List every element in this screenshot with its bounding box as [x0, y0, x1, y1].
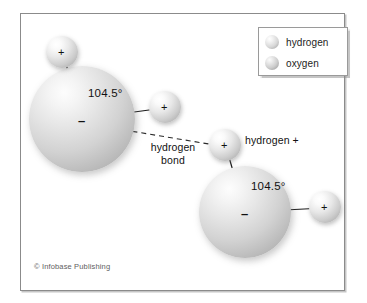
hydrogen-bond-label-line1: hydrogen [136, 141, 210, 154]
oxygen-lower-charge: – [241, 207, 248, 220]
copyright-credit: © Infobase Publishing [34, 262, 110, 271]
angle-label-lower: 104.5° [251, 180, 286, 192]
legend-item-hydrogen: hydrogen [265, 32, 347, 52]
hydrogen-lower-right-charge: + [321, 202, 327, 213]
angle-label-upper: 104.5° [88, 87, 123, 99]
legend-label-hydrogen: hydrogen [286, 37, 329, 48]
legend: hydrogen oxygen [258, 27, 348, 76]
hydrogen-sphere-icon [265, 35, 279, 49]
hydrogen-plus-label: hydrogen + [245, 134, 299, 146]
legend-item-oxygen: oxygen [265, 53, 347, 73]
hydrogen-upper-right-charge: + [161, 102, 167, 113]
legend-label-oxygen: oxygen [286, 58, 319, 69]
oxygen-upper-charge: – [78, 114, 85, 127]
water-hydrogen-bond-diagram: – 104.5° + + hydrogen bond – 104.5° + hy… [0, 0, 367, 303]
hydrogen-bond-label-line2: bond [136, 154, 210, 167]
hydrogen-upper-left-charge: + [58, 47, 64, 58]
oxygen-sphere-icon [265, 56, 279, 70]
hydrogen-lower-left-charge: + [221, 140, 227, 151]
hydrogen-bond-label: hydrogen bond [136, 141, 210, 167]
